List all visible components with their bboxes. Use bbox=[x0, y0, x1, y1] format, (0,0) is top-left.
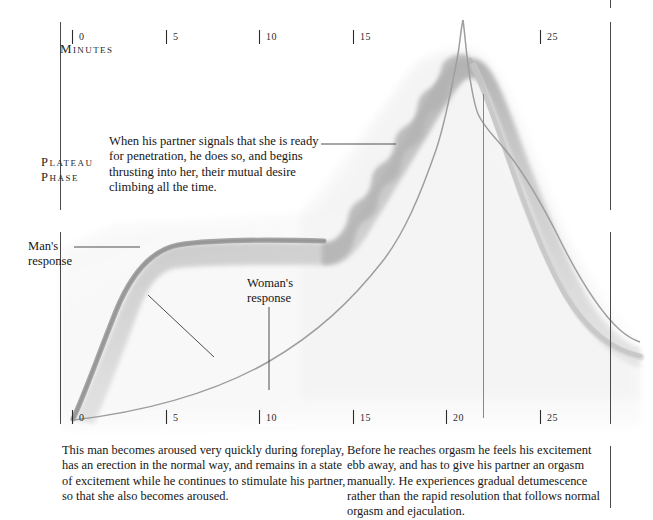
plateau-callout-text: When his partner signals that she is rea… bbox=[109, 134, 323, 196]
bottom-tick-10: 10 bbox=[266, 412, 277, 423]
caption-left: This man becomes aroused very quickly du… bbox=[62, 443, 346, 504]
axis-title-minutes: Minutes bbox=[60, 42, 113, 56]
bottom-tick-5: 5 bbox=[173, 412, 178, 423]
top-tick-25: 25 bbox=[547, 31, 558, 42]
bottom-tick-15: 15 bbox=[360, 412, 371, 423]
caption-right: Before he reaches orgasm he feels his ex… bbox=[347, 443, 605, 520]
top-tick-5: 5 bbox=[173, 31, 178, 42]
top-tick-15: 15 bbox=[360, 31, 371, 42]
bottom-tick-20: 20 bbox=[453, 412, 464, 423]
top-tick-0: 0 bbox=[79, 31, 84, 42]
bottom-tick-25: 25 bbox=[547, 412, 558, 423]
womans-response-label: Woman's response bbox=[247, 276, 293, 307]
bottom-tick-0: 0 bbox=[79, 412, 84, 423]
top-axis-ticks bbox=[73, 30, 541, 44]
mans-response-label: Man's response bbox=[28, 239, 72, 270]
top-tick-10: 10 bbox=[266, 31, 277, 42]
plateau-phase-label: Plateau Phase bbox=[41, 155, 93, 186]
